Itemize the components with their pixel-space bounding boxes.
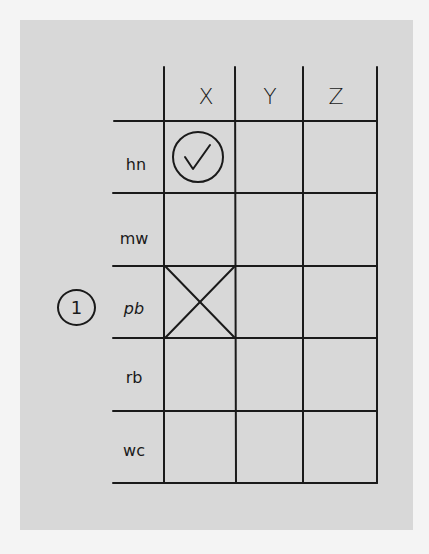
circled-number-annotation: 1 xyxy=(57,289,96,326)
column-header-z: Z xyxy=(328,86,343,108)
cross-icon xyxy=(165,266,235,338)
grid-lines xyxy=(0,0,429,554)
annotation-number: 1 xyxy=(71,297,82,318)
row-label-pb: pb xyxy=(124,301,144,317)
check-circle-icon xyxy=(173,132,223,182)
row-label-wc: wc xyxy=(123,443,145,459)
column-header-x: X xyxy=(198,86,213,108)
row-label-hn: hn xyxy=(126,157,146,173)
column-header-y: Y xyxy=(263,86,276,108)
row-label-rb: rb xyxy=(126,370,143,386)
row-label-mw: mw xyxy=(120,231,149,247)
